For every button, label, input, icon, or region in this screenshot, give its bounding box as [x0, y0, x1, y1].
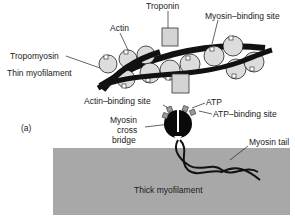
label-actin: Actin — [110, 24, 129, 33]
label-thick-myofilament: Thick myofilament — [134, 186, 203, 195]
label-thin-myofilament: Thin myofilament — [7, 69, 72, 78]
label-myosin-cross-bridge-line3: bridge — [112, 136, 136, 145]
panel-label: (a) — [21, 124, 31, 133]
label-atp: ATP — [206, 98, 222, 107]
label-myosin-cross-bridge-line1: Myosin — [110, 116, 137, 125]
label-myosin-tail: Myosin tail — [249, 138, 289, 147]
troponin-top — [162, 28, 178, 46]
label-myosin-cross-bridge-line2: cross — [117, 126, 137, 135]
troponin-bottom — [172, 74, 189, 93]
label-actin-binding-site: Actin–binding site — [84, 97, 151, 106]
label-atp-binding-site: ATP–binding site — [213, 110, 277, 119]
label-troponin: Troponin — [146, 2, 179, 11]
label-tropomyosin: Tropomyosin — [10, 52, 59, 61]
label-myosin-binding-site: Myosin–binding site — [205, 12, 280, 21]
thick-myofilament-bar — [53, 148, 290, 215]
myosin-head-cleft — [177, 108, 179, 132]
